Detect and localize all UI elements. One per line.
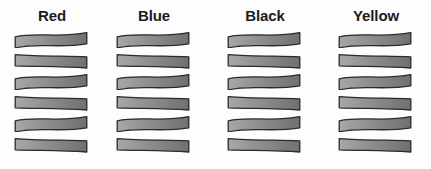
bar-shape (116, 95, 190, 111)
bar-glyph (14, 95, 88, 111)
bar-glyph (14, 53, 88, 69)
bar-glyph (227, 32, 301, 48)
bar-shape (338, 116, 412, 132)
bar-stack (116, 32, 192, 160)
bar-glyph (338, 137, 412, 153)
bar-shape (116, 137, 190, 153)
column-header-label: Red (14, 7, 90, 24)
bar-glyph (227, 95, 301, 111)
bar-groups-figure: Red Blue Black Yellow (0, 0, 431, 169)
bar-shape (227, 137, 301, 153)
bar-shape (116, 32, 190, 48)
bar-shape (338, 137, 412, 153)
bar-glyph (14, 32, 88, 48)
bar-shape (14, 137, 88, 153)
column-group-blue: Blue (116, 0, 192, 169)
column-header-label: Black (227, 7, 303, 24)
bar-stack (227, 32, 303, 160)
column-header-label: Yellow (338, 7, 414, 24)
bar-glyph (338, 95, 412, 111)
bar-glyph (116, 53, 190, 69)
bar-shape (14, 53, 88, 69)
bar-glyph (116, 116, 190, 132)
bar-shape (227, 95, 301, 111)
bar-glyph (338, 53, 412, 69)
bar-shape (227, 32, 301, 48)
bar-glyph (227, 53, 301, 69)
bar-glyph (227, 137, 301, 153)
bar-shape (14, 95, 88, 111)
bar-glyph (14, 116, 88, 132)
bar-shape (227, 74, 301, 90)
bar-glyph (338, 116, 412, 132)
bar-glyph (338, 74, 412, 90)
bar-shape (338, 74, 412, 90)
bar-glyph (227, 74, 301, 90)
bar-stack (338, 32, 414, 160)
bar-shape (116, 74, 190, 90)
bar-shape (338, 53, 412, 69)
bar-glyph (227, 116, 301, 132)
bar-glyph (14, 74, 88, 90)
bar-shape (227, 53, 301, 69)
bar-glyph (116, 137, 190, 153)
bar-shape (116, 53, 190, 69)
bar-stack (14, 32, 90, 160)
bar-shape (227, 116, 301, 132)
bar-glyph (116, 32, 190, 48)
bar-shape (338, 32, 412, 48)
column-header-label: Blue (116, 7, 192, 24)
bar-glyph (116, 74, 190, 90)
bar-glyph (338, 32, 412, 48)
bar-shape (338, 95, 412, 111)
column-group-red: Red (14, 0, 90, 169)
bar-shape (14, 74, 88, 90)
bar-shape (14, 32, 88, 48)
column-group-black: Black (227, 0, 303, 169)
column-group-yellow: Yellow (338, 0, 414, 169)
bar-glyph (116, 95, 190, 111)
bar-shape (116, 116, 190, 132)
bar-shape (14, 116, 88, 132)
bar-glyph (14, 137, 88, 153)
